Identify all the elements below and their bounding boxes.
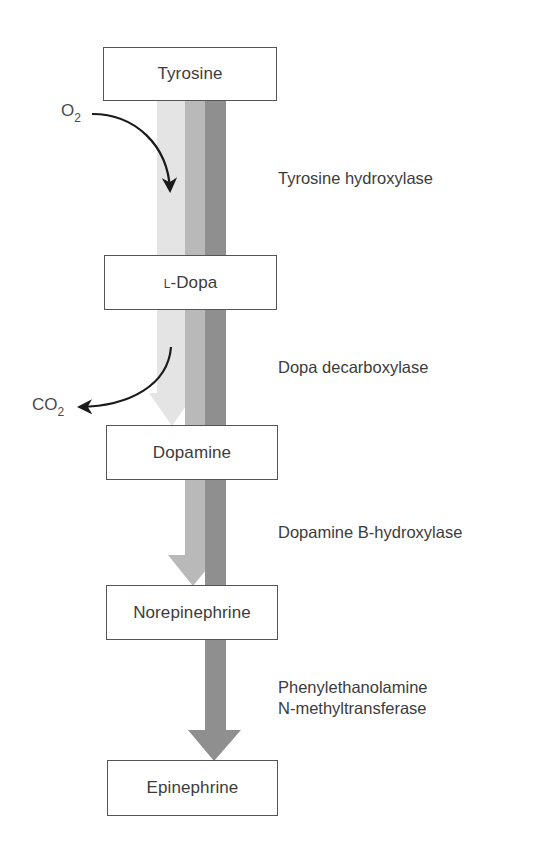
compound-label: Tyrosine: [157, 64, 222, 84]
co2-label: CO2: [32, 395, 64, 419]
compound-label: L-Dopa: [164, 273, 218, 293]
compound-label: Dopamine: [153, 443, 231, 463]
enzyme-label-dopamine-b-hydroxylase: Dopamine B-hydroxylase: [278, 522, 462, 543]
enzyme-label-pnmt: Phenylethanolamine N-methyltransferase: [278, 677, 428, 719]
o2-label: O2: [61, 101, 81, 125]
pathway-diagram: [0, 0, 545, 847]
compound-box-dopamine: Dopamine: [106, 425, 278, 480]
compound-label: Norepinephrine: [133, 603, 251, 623]
compound-box-tyrosine: Tyrosine: [103, 47, 277, 101]
compound-box-epinephrine: Epinephrine: [107, 760, 278, 816]
enzyme-label-dopa-decarboxylase: Dopa decarboxylase: [278, 357, 428, 378]
compound-box-l-dopa: L-Dopa: [104, 255, 277, 310]
enzyme-label-tyrosine-hydroxylase: Tyrosine hydroxylase: [278, 168, 433, 189]
compound-box-norepinephrine: Norepinephrine: [106, 585, 278, 640]
compound-label: Epinephrine: [147, 778, 239, 798]
